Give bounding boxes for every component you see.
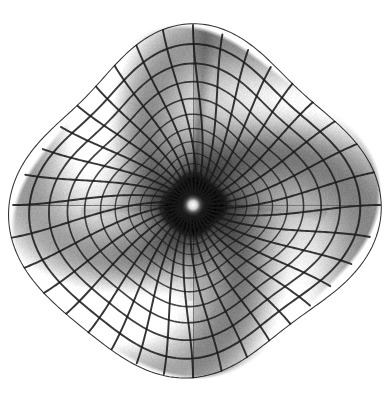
- figure-root: Grayscale wireframe surface plot of a ra…: [0, 0, 386, 397]
- mesh-spoke: [13, 195, 192, 205]
- mesh-spoke: [183, 206, 193, 379]
- mesh-spoke: [20, 205, 192, 270]
- mesh-spoke: [194, 206, 370, 237]
- mesh-spoke: [62, 206, 192, 318]
- center-highlight-spot: [182, 194, 204, 216]
- surface-plot-wireframe: [0, 0, 386, 397]
